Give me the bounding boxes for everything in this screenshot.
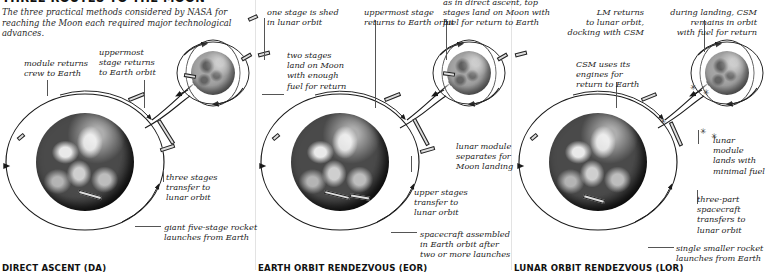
leader-single-rocket bbox=[648, 247, 674, 248]
label-giant-rocket: giant five-stage rocket launches from Ea… bbox=[164, 222, 257, 242]
leader-one-stage-shed bbox=[264, 18, 265, 60]
label-csm-remains: during landing, CSM remains in orbit wit… bbox=[655, 7, 757, 38]
label-one-stage-shed: one stage is shed in lunar orbit bbox=[267, 7, 339, 27]
moon-globe-da bbox=[191, 51, 235, 95]
earth-globe-da bbox=[36, 113, 134, 211]
leader-three-stages bbox=[163, 170, 164, 182]
label-lm-returns: LM returns to lunar orbit, docking with … bbox=[566, 7, 644, 38]
label-three-part: three-part spacecraft transfers to lunar… bbox=[697, 194, 745, 235]
label-upper-stages: upper stages transfer to lunar orbit bbox=[414, 187, 468, 218]
leader-lunar-module-separates bbox=[411, 156, 412, 172]
label-single-rocket: single smaller rocket launches from Eart… bbox=[676, 243, 763, 263]
label-uppermost-stage-da: uppermost stage returns to Earth orbit bbox=[99, 47, 156, 78]
leader-uppermost-stage-da bbox=[144, 80, 145, 108]
leader-spacecraft-assembled bbox=[391, 232, 417, 233]
leader-uppermost-stage-eor bbox=[375, 20, 376, 108]
label-lunar-module-separates: lunar module separates for Moon landing bbox=[456, 141, 513, 172]
label-two-stages-land: two stages land on Moon with enough fuel… bbox=[287, 50, 346, 91]
label-three-stages: three stages transfer to lunar orbit bbox=[166, 172, 217, 203]
docking-star-lor-2: ✳ bbox=[690, 84, 697, 92]
section-caption-earth-orbit-rendezvous: EARTH ORBIT RENDEZVOUS (EOR) bbox=[258, 263, 427, 273]
docking-star-lor-1: ✳ bbox=[660, 118, 667, 126]
leader-module-returns bbox=[47, 80, 48, 96]
leader-giant-rocket bbox=[135, 226, 161, 227]
earth-globe-lor bbox=[549, 113, 647, 211]
leader-two-stages-land bbox=[262, 94, 284, 95]
leader-lunar-module-lands bbox=[698, 130, 699, 144]
label-csm-engines: CSM uses its engines for return to Earth bbox=[576, 59, 639, 90]
lm-star-lor-1: ✳ bbox=[700, 128, 707, 136]
label-uppermost-stage-eor: uppermost stage returns to Earth orbit bbox=[364, 7, 454, 27]
section-caption-lunar-orbit-rendezvous: LUNAR ORBIT RENDEZVOUS (LOR) bbox=[514, 263, 684, 273]
label-top-stages-land: as in direct ascent, top stages land on … bbox=[443, 0, 550, 28]
label-module-returns: module returns crew to Earth bbox=[24, 58, 88, 78]
moon-globe-lor bbox=[705, 51, 749, 95]
section-caption-direct-ascent: DIRECT ASCENT (DA) bbox=[2, 263, 106, 273]
docking-star-lor-3: ✳ bbox=[703, 89, 710, 97]
label-lunar-module-lands: lunar module lands with minimal fuel bbox=[713, 135, 768, 176]
label-spacecraft-assembled: spacecraft assembled in Earth orbit afte… bbox=[420, 229, 510, 260]
